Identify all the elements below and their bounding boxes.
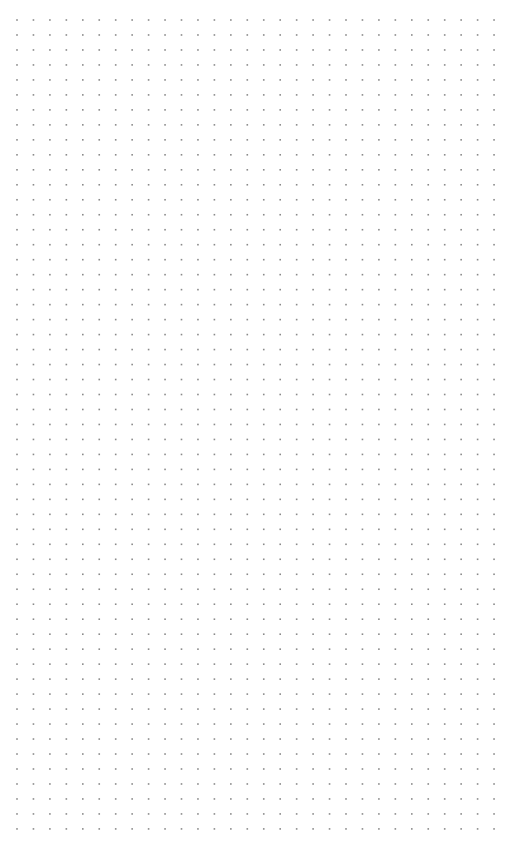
- dot-grid: [0, 0, 531, 863]
